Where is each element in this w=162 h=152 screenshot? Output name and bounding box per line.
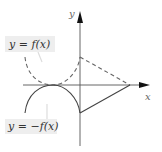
f-label-pointer — [38, 52, 42, 62]
f-curve-left — [25, 57, 80, 85]
y-axis — [77, 11, 83, 146]
neg-f-curve-left — [25, 85, 80, 113]
x-axis-label: x — [145, 91, 151, 102]
y-axis-label: y — [68, 8, 75, 19]
y-axis-arrow-icon — [77, 11, 83, 23]
x-axis-arrow-icon — [139, 82, 150, 88]
f-line-right — [80, 57, 130, 85]
graph-diagram: y = f(x) y = −f(x) y x — [0, 0, 162, 152]
neg-f-line-right — [80, 85, 130, 113]
f-label: y = f(x) — [8, 38, 50, 51]
neg-f-label: y = −f(x) — [7, 120, 59, 133]
